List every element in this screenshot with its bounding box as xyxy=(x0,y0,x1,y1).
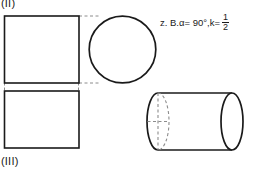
label-part-two: (II) xyxy=(1,0,15,9)
lower-rectangle xyxy=(5,91,80,148)
fraction-numerator: 1 xyxy=(222,13,229,22)
annotation-angle-value: = 90°, xyxy=(185,18,210,28)
circle xyxy=(89,16,156,83)
upper-rectangle xyxy=(5,16,80,83)
cylinder xyxy=(147,93,243,150)
annotation-equals: = xyxy=(214,18,220,28)
annotation-example: z. B. α = 90°, k = 1 2 xyxy=(160,13,229,33)
label-part-three: (III) xyxy=(1,155,19,167)
annotation-prefix: z. B. xyxy=(160,18,179,28)
fraction-one-half: 1 2 xyxy=(222,13,229,33)
geometry-figure: (II) (III) z. B. α = 90°, k = 1 2 xyxy=(0,0,253,175)
fraction-denominator: 2 xyxy=(222,22,229,32)
cylinder-right-ellipse xyxy=(221,93,243,150)
